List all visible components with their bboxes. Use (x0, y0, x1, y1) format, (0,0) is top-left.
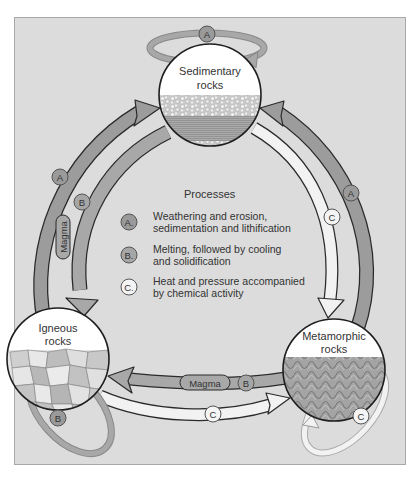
svg-text:Heat and pressure accompanied: Heat and pressure accompanied (153, 275, 305, 287)
svg-text:C.: C. (124, 282, 134, 293)
svg-text:C: C (210, 409, 217, 420)
svg-text:Magma: Magma (58, 220, 69, 252)
svg-text:C: C (329, 212, 336, 223)
legend-title: Processes (184, 188, 236, 200)
svg-text:Weathering and erosion,: Weathering and erosion, (153, 210, 267, 222)
svg-text:A: A (57, 172, 64, 183)
igneous-label-line2: rocks (45, 335, 72, 347)
metamorphic-label-line2: rocks (321, 343, 348, 355)
badge-A-left: A (52, 169, 68, 185)
svg-text:and solidification: and solidification (153, 255, 231, 267)
magma-label-left: Magma (56, 215, 70, 259)
svg-text:sedimentation and lithificatio: sedimentation and lithification (153, 222, 291, 234)
metamorphic-label-line1: Metamorphic (302, 330, 366, 342)
badge-A-right: A (343, 185, 359, 201)
sedimentary-label-line1: Sedimentary (179, 65, 241, 77)
svg-text:A.: A. (125, 217, 134, 228)
igneous-label-line1: Igneous (38, 322, 78, 334)
svg-text:Magma: Magma (189, 378, 221, 389)
svg-text:A: A (204, 29, 211, 40)
svg-text:C: C (358, 411, 365, 422)
svg-text:B: B (243, 378, 249, 389)
badge-C-metamorphic-loop: C (353, 408, 369, 424)
svg-text:B: B (55, 413, 61, 424)
badge-B-igneous-loop: B (50, 410, 66, 426)
magma-label-bottom: Magma (180, 375, 230, 390)
badge-C-right: C (324, 209, 340, 225)
svg-text:by chemical activity: by chemical activity (153, 287, 244, 299)
svg-text:Melting, followed by cooling: Melting, followed by cooling (153, 243, 282, 255)
badge-B-left: B (74, 194, 90, 210)
svg-text:B.: B. (125, 250, 134, 261)
svg-text:B: B (79, 197, 85, 208)
badge-B-bottom: B (238, 375, 254, 391)
sedimentary-label-line2: rocks (197, 79, 224, 91)
badge-A-top-loop: A (199, 26, 215, 42)
badge-C-bottom: C (205, 406, 221, 422)
svg-text:A: A (348, 188, 355, 199)
rock-cycle-diagram: Sedimentary rocks Igne (0, 0, 419, 478)
